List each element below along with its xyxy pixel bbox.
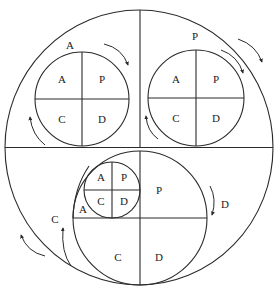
quadrant-label: C xyxy=(97,195,104,207)
arrow-icon xyxy=(146,116,158,139)
top-left-cycle-label: A xyxy=(66,39,74,51)
quadrant-label: P xyxy=(156,184,162,196)
arrow-icon xyxy=(21,235,45,256)
inner-a-label: A xyxy=(79,203,87,215)
quadrant-label: C xyxy=(114,251,121,263)
quadrant-label: C xyxy=(58,113,65,125)
quadrant-label: D xyxy=(155,251,163,263)
quadrant-label: A xyxy=(97,171,105,183)
arrow-icon xyxy=(63,228,71,266)
arrow-icon xyxy=(210,186,214,215)
bottom-right-label: D xyxy=(221,198,229,210)
quadrant-label: D xyxy=(98,113,106,125)
quadrant-label: D xyxy=(212,112,220,124)
arrow-icon xyxy=(221,50,243,73)
bottom-cycle: A P C D A P C D D C xyxy=(51,151,229,285)
arrow-icon xyxy=(30,117,45,145)
quadrant-label: P xyxy=(121,171,127,183)
quadrant-label: A xyxy=(172,73,180,85)
top-right-cycle: P A P C D xyxy=(148,30,244,146)
quadrant-label: D xyxy=(120,195,128,207)
quadrant-label: P xyxy=(99,73,105,85)
top-left-cycle: A A P C D xyxy=(35,39,129,146)
arrow-icon xyxy=(104,44,128,65)
bottom-left-label: C xyxy=(51,213,58,225)
top-right-cycle-label: P xyxy=(192,30,198,42)
quadrant-label: P xyxy=(213,73,219,85)
quadrant-label: C xyxy=(172,112,179,124)
pdca-diagram: A A P C D P A P C D A P C D A P C D D C xyxy=(0,0,274,296)
quadrant-label: A xyxy=(58,73,66,85)
